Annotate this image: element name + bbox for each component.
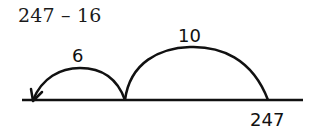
jump-label-6: 6 <box>72 45 83 66</box>
jump-arc-10 <box>125 47 268 100</box>
start-label: 247 <box>250 109 284 130</box>
number-line-diagram: 10 6 247 <box>0 0 314 139</box>
jump-label-10: 10 <box>178 25 201 46</box>
jump-arc-6 <box>33 68 125 100</box>
